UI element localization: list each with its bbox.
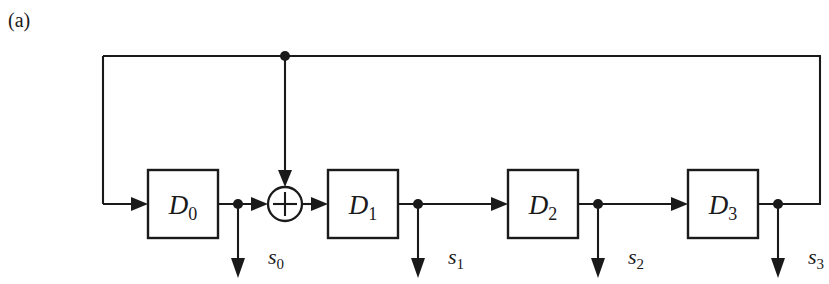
tap-label-s2: s2: [628, 244, 644, 272]
arrow-head-into-xor-top: [278, 170, 292, 187]
tap-label-s1: s1: [448, 244, 464, 272]
arrow-head-into-d1: [311, 197, 328, 211]
feedback-branch-dot: [280, 51, 290, 61]
figure-panel: (a) D0 s0 D1: [0, 0, 829, 284]
tap-label-s3: s3: [808, 244, 824, 272]
arrow-head-into-d0: [131, 197, 148, 211]
tap-arrow-s0: [231, 258, 245, 278]
lfsr-diagram: D0 s0 D1 s1 D2 s2: [0, 0, 829, 284]
tap-arrow-s3: [771, 258, 785, 278]
arrow-head-into-xor-left: [251, 197, 268, 211]
tap-label-s0: s0: [268, 244, 284, 272]
tap-arrow-s2: [591, 258, 605, 278]
arrow-head-into-d2: [491, 197, 508, 211]
arrow-head-into-d3: [671, 197, 688, 211]
tap-arrow-s1: [411, 258, 425, 278]
